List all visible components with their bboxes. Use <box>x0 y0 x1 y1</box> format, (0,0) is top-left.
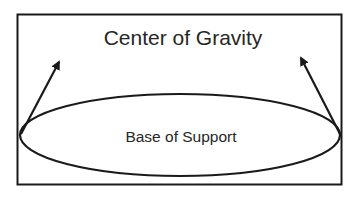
left-arrow-icon <box>21 62 59 134</box>
base-of-support-label: Base of Support <box>125 128 237 145</box>
right-arrow-icon <box>301 58 340 134</box>
center-of-gravity-label: Center of Gravity <box>104 26 263 49</box>
diagram-canvas: Center of Gravity Base of Support <box>0 0 360 199</box>
